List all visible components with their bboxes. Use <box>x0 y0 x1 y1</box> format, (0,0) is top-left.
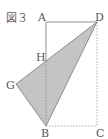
figure-caption: 図３ <box>6 12 28 25</box>
label-g: G <box>6 79 15 92</box>
label-d: D <box>95 11 104 24</box>
shaded-triangle-gdb <box>16 22 97 126</box>
geometry-figure: 図３ A D H G B C <box>0 0 108 139</box>
label-h: H <box>36 51 46 64</box>
label-b: B <box>41 127 49 139</box>
label-c: C <box>96 127 104 139</box>
label-a: A <box>37 11 47 24</box>
